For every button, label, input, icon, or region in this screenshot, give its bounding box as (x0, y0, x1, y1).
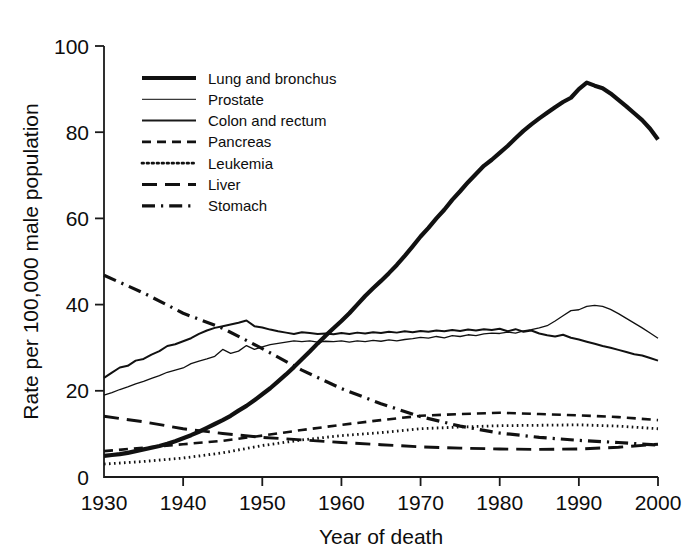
x-axis-tick-label: 1960 (318, 491, 365, 514)
y-axis-tick-label: 80 (66, 121, 89, 144)
x-axis-tick-label: 1970 (397, 491, 444, 514)
y-axis-title: Rate per 100,000 male population (19, 103, 42, 419)
legend-label-colon-and-rectum: Colon and rectum (208, 112, 326, 129)
chart-series (104, 83, 658, 464)
chart-axes: 0204060801001930194019501960197019801990… (54, 35, 681, 515)
legend-label-liver: Liver (208, 176, 241, 193)
x-axis-tick-label: 1990 (555, 491, 602, 514)
x-axis-tick-label: 1930 (81, 491, 128, 514)
x-axis-tick-label: 1940 (160, 491, 207, 514)
legend-label-lung-and-bronchus: Lung and bronchus (208, 70, 336, 87)
line-chart: 0204060801001930194019501960197019801990… (0, 0, 693, 556)
y-axis-tick-label: 40 (66, 293, 89, 316)
legend-label-stomach: Stomach (208, 197, 267, 214)
chart-legend: Lung and bronchusProstateColon and rectu… (142, 70, 336, 215)
x-axis-tick-label: 2000 (635, 491, 682, 514)
y-axis-tick-label: 0 (77, 466, 89, 489)
axis-spine (104, 46, 658, 477)
x-axis-title: Year of death (319, 525, 443, 548)
series-line-prostate (104, 305, 658, 395)
legend-label-prostate: Prostate (208, 91, 264, 108)
y-axis-tick-label: 20 (66, 379, 89, 402)
legend-label-leukemia: Leukemia (208, 155, 274, 172)
x-axis-tick-label: 1950 (239, 491, 286, 514)
legend-label-pancreas: Pancreas (208, 133, 271, 150)
series-line-colon-and-rectum (104, 321, 658, 378)
x-axis-tick-label: 1980 (476, 491, 523, 514)
chart-figure: 0204060801001930194019501960197019801990… (0, 0, 693, 556)
series-line-lung-and-bronchus (104, 83, 658, 456)
y-axis-tick-label: 100 (54, 35, 89, 58)
y-axis-tick-label: 60 (66, 207, 89, 230)
